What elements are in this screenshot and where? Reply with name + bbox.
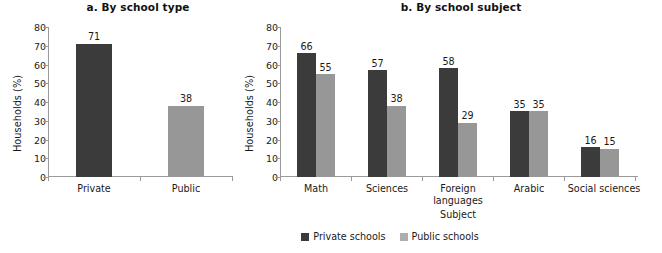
- y-tick: [275, 140, 280, 141]
- y-tick: [43, 140, 48, 141]
- y-tick: [43, 27, 48, 28]
- bar-public: [387, 106, 406, 177]
- bar-private: [439, 68, 458, 177]
- legend-swatch-icon: [301, 233, 309, 241]
- bar-value-label: 57: [355, 58, 400, 69]
- x-category-label: Social sciences: [557, 183, 651, 195]
- chart-legend: Private schools Public schools: [0, 231, 662, 242]
- y-tick: [43, 46, 48, 47]
- panel-b-title: b. By school subject: [250, 1, 662, 13]
- y-tick: [275, 83, 280, 84]
- bar-value-label: 35: [516, 99, 561, 110]
- bar-private: [368, 70, 387, 177]
- x-tick: [48, 177, 49, 181]
- bar-value-label: 66: [284, 41, 329, 52]
- x-tick: [351, 177, 352, 181]
- bar-public: [316, 74, 335, 177]
- panel-a-y-axis-title: Households (%): [12, 75, 23, 152]
- legend-item-public-schools: Public schools: [400, 231, 479, 242]
- panel-a-plot-area: 71 38 Private Public: [48, 27, 233, 177]
- legend-item-private-schools: Private schools: [301, 231, 385, 242]
- x-tick: [232, 177, 233, 181]
- chart-figure: a. By school type Households (%) 80 70 6…: [0, 0, 662, 253]
- panel-b-y-axis-title: Households (%): [244, 75, 255, 152]
- bar-value-label: 29: [445, 110, 490, 121]
- bar-public: [529, 111, 548, 177]
- x-category-label: Private: [54, 183, 134, 195]
- panel-b-x-axis-title: Subject: [418, 209, 498, 220]
- panel-a-title: a. By school type: [0, 1, 250, 13]
- x-category-label: Math: [276, 183, 356, 195]
- y-tick: [275, 65, 280, 66]
- bar-public: [168, 106, 204, 177]
- panel-by-school-subject: b. By school subject Households (%) 80 7…: [250, 0, 662, 225]
- x-category-label: Foreign languages: [418, 183, 498, 206]
- x-tick: [564, 177, 565, 181]
- y-axis-line: [280, 27, 281, 177]
- bar-value-label: 15: [587, 136, 632, 147]
- bar-public: [600, 149, 619, 177]
- y-tick: [43, 102, 48, 103]
- x-category-label: Public: [146, 183, 226, 195]
- bar-value-label: 55: [303, 62, 348, 73]
- x-tick: [635, 177, 636, 181]
- y-tick: [275, 102, 280, 103]
- panel-by-school-type: a. By school type Households (%) 80 70 6…: [0, 0, 250, 225]
- bar-public: [458, 123, 477, 177]
- bar-private: [510, 111, 529, 177]
- panel-b-plot-area: 66 55 57 38 58 29 35 35 16 15 Math Scien…: [280, 27, 638, 177]
- bar-private: [76, 44, 112, 177]
- legend-label: Public schools: [412, 231, 479, 242]
- y-tick: [43, 158, 48, 159]
- y-tick: [43, 83, 48, 84]
- y-tick: [43, 121, 48, 122]
- y-tick: [275, 158, 280, 159]
- bar-private: [581, 147, 600, 177]
- x-tick: [493, 177, 494, 181]
- x-tick: [140, 177, 141, 181]
- y-tick: [275, 27, 280, 28]
- y-tick: [275, 46, 280, 47]
- legend-label: Private schools: [313, 231, 385, 242]
- legend-swatch-icon: [400, 233, 408, 241]
- bar-value-label: 58: [426, 56, 471, 67]
- y-tick: [275, 121, 280, 122]
- x-tick: [280, 177, 281, 181]
- y-tick: [43, 65, 48, 66]
- bar-value-label: 71: [64, 31, 124, 42]
- x-category-label: Sciences: [347, 183, 427, 195]
- bar-value-label: 38: [374, 93, 419, 104]
- x-tick: [422, 177, 423, 181]
- bar-value-label: 38: [156, 93, 216, 104]
- y-axis-line: [48, 27, 49, 177]
